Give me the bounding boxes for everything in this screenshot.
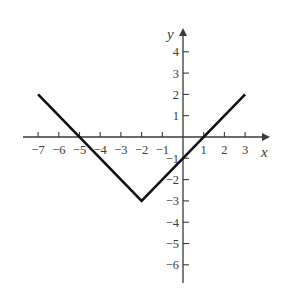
x-axis-label: x <box>260 144 268 160</box>
x-tick-label: −2 <box>135 143 148 157</box>
x-tick-label: −6 <box>52 143 65 157</box>
x-tick-label: −5 <box>73 143 86 157</box>
x-tick-label: 2 <box>221 143 227 157</box>
y-tick-label: 1 <box>173 109 179 123</box>
y-tick-label: 2 <box>173 88 179 102</box>
function-graph: −7−6−5−4−3−2−1123 4321−1−2−3−4−5−6 x y <box>0 0 295 295</box>
y-tick-label: −5 <box>166 237 179 251</box>
y-tick-label: −6 <box>166 258 179 272</box>
y-tick-label: −4 <box>166 216 180 230</box>
y-axis-ticks: 4321−1−2−3−4−5−6 <box>166 45 189 272</box>
x-tick-label: 3 <box>242 143 248 157</box>
x-axis-ticks: −7−6−5−4−3−2−1123 <box>31 132 248 157</box>
x-tick-label: −3 <box>114 143 127 157</box>
y-axis-label: y <box>165 26 174 42</box>
x-tick-label: −7 <box>31 143 44 157</box>
y-tick-label: 3 <box>173 67 179 81</box>
y-tick-label: 4 <box>173 45 180 59</box>
y-tick-label: −3 <box>166 194 179 208</box>
x-tick-label: 1 <box>201 143 207 157</box>
